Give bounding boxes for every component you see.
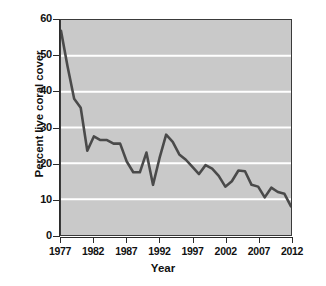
- x-tick: [159, 237, 160, 243]
- y-tick-label: 60: [12, 12, 52, 24]
- y-tick-label: 50: [12, 48, 52, 60]
- x-tick: [292, 237, 293, 243]
- x-tick-label: 2012: [270, 245, 314, 257]
- x-tick: [193, 237, 194, 243]
- y-axis-title: Percent live coral cover: [33, 14, 45, 214]
- y-tick-label: 0: [12, 229, 52, 241]
- coral-cover-chart: Percent live coral cover 0102030405060 1…: [0, 0, 326, 286]
- y-tick-label: 40: [12, 84, 52, 96]
- x-tick: [60, 237, 61, 243]
- x-tick: [93, 237, 94, 243]
- y-tick: [53, 200, 59, 201]
- y-tick: [53, 91, 59, 92]
- y-tick-label: 30: [12, 121, 52, 133]
- y-tick: [53, 19, 59, 20]
- coral-cover-line-series: [61, 20, 291, 235]
- y-tick: [53, 164, 59, 165]
- plot-area: [60, 19, 292, 236]
- x-axis-title: Year: [0, 262, 326, 274]
- data-line: [61, 31, 291, 207]
- y-tick: [53, 128, 59, 129]
- y-tick-label: 10: [12, 193, 52, 205]
- y-tick: [53, 55, 59, 56]
- x-tick: [226, 237, 227, 243]
- y-tick-label: 20: [12, 157, 52, 169]
- x-tick: [126, 237, 127, 243]
- y-tick: [53, 236, 59, 237]
- x-tick: [259, 237, 260, 243]
